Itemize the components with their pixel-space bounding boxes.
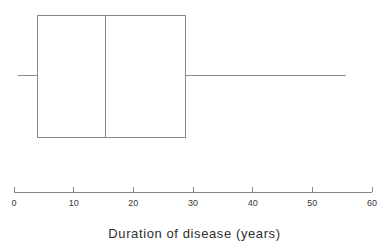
x-axis: 0102030405060 bbox=[11, 187, 377, 208]
boxplot-figure: 0102030405060 Duration of disease (years… bbox=[0, 0, 389, 248]
x-axis-tick-labels: 0102030405060 bbox=[11, 198, 377, 208]
x-axis-label: Duration of disease (years) bbox=[108, 226, 280, 241]
boxplot-canvas: 0102030405060 Duration of disease (years… bbox=[0, 0, 389, 248]
x-axis-tick-label-20: 20 bbox=[128, 198, 138, 208]
interquartile-box bbox=[38, 15, 186, 137]
boxplot-series bbox=[18, 15, 346, 137]
x-axis-ticks bbox=[14, 187, 372, 192]
x-axis-tick-label-40: 40 bbox=[248, 198, 258, 208]
x-axis-tick-label-50: 50 bbox=[307, 198, 317, 208]
x-axis-tick-label-60: 60 bbox=[367, 198, 377, 208]
x-axis-tick-label-30: 30 bbox=[188, 198, 198, 208]
x-axis-tick-label-10: 10 bbox=[69, 198, 79, 208]
x-axis-tick-label-0: 0 bbox=[11, 198, 16, 208]
